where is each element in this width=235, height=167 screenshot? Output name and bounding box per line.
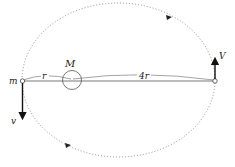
orbit-ellipse bbox=[22, 3, 215, 157]
planet-perihelion bbox=[20, 79, 24, 83]
central-mass-circle bbox=[63, 71, 82, 90]
label-r: r bbox=[42, 71, 47, 81]
orbit-diagram: r 4r M m v V bbox=[0, 0, 235, 167]
label-4r: 4r bbox=[138, 71, 150, 81]
label-V: V bbox=[219, 51, 227, 61]
planet-aphelion bbox=[213, 79, 217, 83]
orbit-direction-arrow-bottom bbox=[65, 143, 71, 148]
label-v: v bbox=[11, 116, 16, 126]
label-M: M bbox=[64, 58, 76, 69]
orbit-direction-arrow-top bbox=[166, 15, 172, 20]
label-m: m bbox=[9, 76, 18, 86]
